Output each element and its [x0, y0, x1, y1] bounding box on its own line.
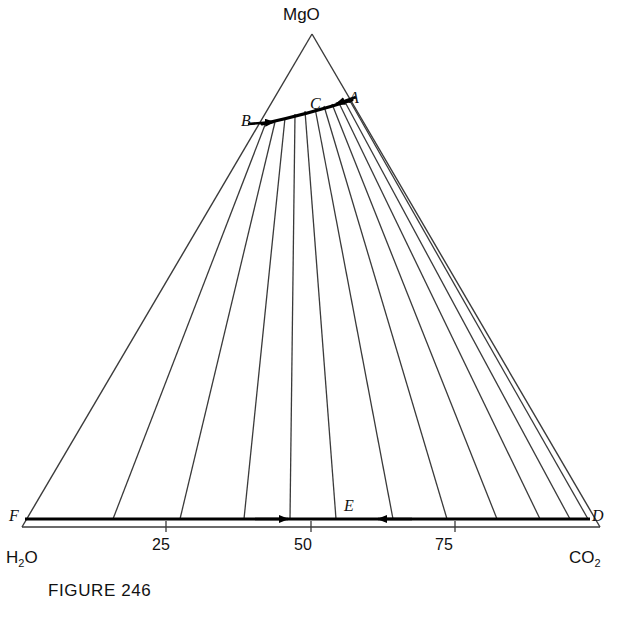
axis-tick-label-75: 75: [435, 537, 453, 553]
point-label-e: E: [344, 498, 354, 514]
corner-label-h2o: H2O: [6, 549, 38, 566]
h2o-text: H: [6, 548, 18, 567]
figure-container: MgO H2O CO2 A B C D E F 25 50 75 FIGURE …: [0, 0, 622, 617]
tie-line: [350, 101, 588, 519]
point-label-c: C: [310, 96, 321, 112]
h2o-subscript: 2: [18, 557, 24, 569]
triangle-right-edge: [312, 34, 600, 527]
tie-line: [339, 103, 540, 519]
point-label-b: B: [241, 113, 251, 129]
tie-line: [332, 104, 497, 519]
co2-text: CO: [569, 548, 595, 567]
apex-label-mgo: MgO: [283, 6, 320, 23]
tie-line: [345, 102, 570, 519]
tie-line: [324, 106, 447, 519]
co2-subscript: 2: [595, 557, 601, 569]
h2o-tail: O: [24, 548, 37, 567]
tie-line: [180, 122, 275, 519]
tie-line-group: [113, 101, 588, 519]
tie-line: [113, 125, 265, 519]
axis-tick-label-25: 25: [152, 537, 170, 553]
point-label-a: A: [349, 90, 359, 106]
tie-line: [290, 114, 295, 519]
point-label-d: D: [592, 508, 604, 524]
axis-tick-label-50: 50: [294, 537, 312, 553]
tie-line: [244, 118, 285, 519]
ternary-diagram-svg: [0, 0, 622, 617]
figure-caption: FIGURE 246: [48, 582, 151, 599]
tie-line: [305, 111, 336, 519]
corner-label-co2: CO2: [569, 549, 601, 566]
point-label-f: F: [9, 508, 19, 524]
